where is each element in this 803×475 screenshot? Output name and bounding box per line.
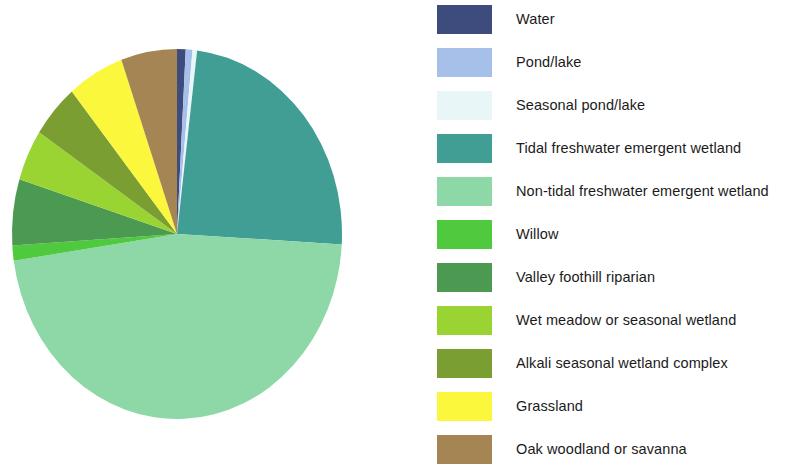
legend-color-swatch xyxy=(437,48,492,77)
legend-color-swatch xyxy=(437,91,492,120)
legend-item[interactable]: Seasonal pond/lake xyxy=(437,90,645,120)
legend-color-swatch xyxy=(437,177,492,206)
legend-item-label: Valley foothill riparian xyxy=(516,269,655,286)
legend-color-swatch xyxy=(437,134,492,163)
legend-item-label: Grassland xyxy=(516,398,583,415)
legend-item[interactable]: Valley foothill riparian xyxy=(437,262,655,292)
legend-item-label: Alkali seasonal wetland complex xyxy=(516,355,728,372)
legend-item[interactable]: Wet meadow or seasonal wetland xyxy=(437,305,736,335)
legend-color-swatch xyxy=(437,349,492,378)
legend-item-label: Non-tidal freshwater emergent wetland xyxy=(516,183,769,200)
legend-item[interactable]: Tidal freshwater emergent wetland xyxy=(437,133,741,163)
legend-color-swatch xyxy=(437,306,492,335)
legend-item[interactable]: Grassland xyxy=(437,391,583,421)
legend-item-label: Oak woodland or savanna xyxy=(516,441,687,458)
pie-chart-plot-area: WaterPond/lakeSeasonal pond/lakeTidal fr… xyxy=(7,48,347,420)
legend-color-swatch xyxy=(437,435,492,464)
legend-item[interactable]: Alkali seasonal wetland complex xyxy=(437,348,728,378)
legend-item[interactable]: Non-tidal freshwater emergent wetland xyxy=(437,176,769,206)
legend-color-swatch xyxy=(437,5,492,34)
legend-item[interactable]: Oak woodland or savanna xyxy=(437,434,687,464)
legend-item[interactable]: Willow xyxy=(437,219,559,249)
legend-item-label: Tidal freshwater emergent wetland xyxy=(516,140,741,157)
legend-item-label: Willow xyxy=(516,226,559,243)
legend-item[interactable]: Pond/lake xyxy=(437,47,581,77)
legend-color-swatch xyxy=(437,392,492,421)
pie-slice[interactable]: Non-tidal freshwater emergent wetland xyxy=(14,234,342,419)
legend-item-label: Water xyxy=(516,11,555,28)
legend-color-swatch xyxy=(437,263,492,292)
pie-slice[interactable]: Tidal freshwater emergent wetland xyxy=(177,50,342,244)
legend-item-label: Wet meadow or seasonal wetland xyxy=(516,312,736,329)
legend-color-swatch xyxy=(437,220,492,249)
pie-slice-group: WaterPond/lakeSeasonal pond/lakeTidal fr… xyxy=(12,49,342,419)
pie-chart-figure: WaterPond/lakeSeasonal pond/lakeTidal fr… xyxy=(0,0,803,475)
pie-chart-svg: WaterPond/lakeSeasonal pond/lakeTidal fr… xyxy=(7,48,347,420)
legend-item[interactable]: Water xyxy=(437,4,555,34)
legend-item-label: Seasonal pond/lake xyxy=(516,97,645,114)
chart-legend: WaterPond/lakeSeasonal pond/lakeTidal fr… xyxy=(437,0,803,475)
legend-item-label: Pond/lake xyxy=(516,54,581,71)
